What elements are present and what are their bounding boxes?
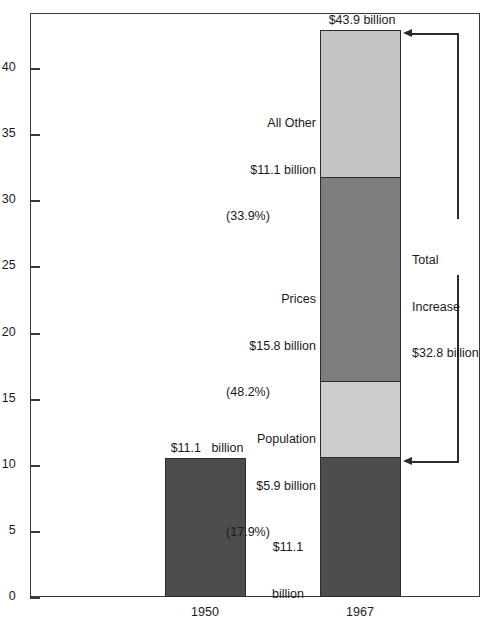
- bracket-bottom-horizontal: [412, 461, 459, 463]
- label-prices-line3: (48.2%): [180, 385, 316, 401]
- label-base-1967-line1: $11.1: [252, 540, 324, 556]
- bracket-label-line3: $32.8 billion: [412, 346, 487, 362]
- y-tick-15: 15: [0, 399, 30, 400]
- label-prices-line1: Prices: [180, 292, 316, 308]
- bracket-vertical-upper: [457, 33, 459, 219]
- y-tick-label: 5: [0, 522, 16, 538]
- bracket-label-line1: Total: [412, 253, 487, 269]
- y-tick-label: 0: [0, 588, 16, 604]
- y-tick-5: 5: [0, 531, 30, 532]
- y-tick-mark: [30, 399, 40, 401]
- y-tick-0: 0: [0, 597, 30, 598]
- bar-1967-total-label: $43.9 billion: [307, 13, 417, 28]
- bracket-bottom-arrow-icon: [403, 457, 412, 465]
- y-tick-mark: [30, 597, 40, 599]
- y-tick-mark: [30, 465, 40, 467]
- y-tick-mark: [30, 333, 40, 335]
- y-tick-label: 15: [0, 390, 16, 406]
- bar-1967-segment-population[interactable]: [320, 381, 401, 458]
- x-label-1967: 1967: [300, 604, 420, 620]
- bracket-label: Total Increase $32.8 billion: [412, 222, 487, 393]
- y-tick-40: 40: [0, 68, 30, 69]
- y-tick-30: 30: [0, 200, 30, 201]
- y-tick-20: 20: [0, 333, 30, 334]
- label-population-line2: $5.9 billion: [180, 479, 316, 495]
- y-tick-label: 20: [0, 324, 16, 340]
- y-tick-mark: [30, 134, 40, 136]
- label-all-other: All Other $11.1 billion (33.9%): [180, 85, 316, 256]
- y-tick-10: 10: [0, 465, 30, 466]
- y-tick-label: 30: [0, 191, 16, 207]
- x-label-1950: 1950: [145, 604, 265, 620]
- label-population-line1: Population: [180, 432, 316, 448]
- label-prices-line2: $15.8 billion: [180, 339, 316, 355]
- y-tick-mark: [30, 531, 40, 533]
- y-tick-35: 35: [0, 134, 30, 135]
- bracket-top-arrow-icon: [403, 29, 412, 37]
- label-all-other-line3: (33.9%): [180, 209, 316, 225]
- y-tick-label: 10: [0, 456, 16, 472]
- bracket-top-horizontal: [412, 33, 459, 35]
- bar-1967[interactable]: [320, 30, 401, 597]
- y-tick-mark: [30, 200, 40, 202]
- y-tick-label: 35: [0, 125, 16, 141]
- bar-1967-segment-base[interactable]: [320, 457, 401, 597]
- bar-chart: 0 5 10 15 20 25 30 35: [0, 0, 487, 631]
- label-all-other-line1: All Other: [180, 116, 316, 132]
- bar-1967-segment-all-other[interactable]: [320, 30, 401, 178]
- bar-1967-segment-prices[interactable]: [320, 177, 401, 382]
- label-base-1967-line2: billion: [252, 587, 324, 603]
- y-tick-mark: [30, 68, 40, 70]
- y-tick-mark: [30, 266, 40, 268]
- y-tick-label: 40: [0, 59, 16, 75]
- label-all-other-line2: $11.1 billion: [180, 163, 316, 179]
- y-tick-25: 25: [0, 266, 30, 267]
- y-tick-label: 25: [0, 257, 16, 273]
- bracket-label-line2: Increase: [412, 300, 487, 316]
